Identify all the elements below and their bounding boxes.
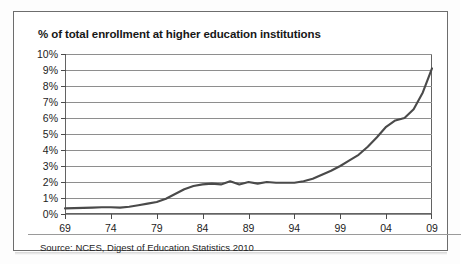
x-axis-tick [111,214,112,219]
y-axis-label: 1% [43,192,58,204]
y-axis-label: 7% [43,96,58,108]
series-line-enrollment-share [65,68,432,208]
x-axis-label: 04 [380,222,392,234]
x-axis-label: 84 [197,222,209,234]
x-axis-label: 89 [243,222,255,234]
series-line-chart [65,54,432,214]
x-axis-tick [249,214,250,219]
source-note: Source: NCES, Digest of Education Statis… [40,242,254,253]
x-axis-tick [386,214,387,219]
y-axis-label: 4% [43,144,58,156]
y-axis-label: 8% [43,80,58,92]
y-axis-label: 10% [37,48,58,60]
chart-title: % of total enrollment at higher educatio… [38,28,321,40]
x-axis-tick [65,214,66,219]
x-axis-tick [157,214,158,219]
plot-area: 10%9%8%7%6%5%4%3%2%1%0% 6974798489949904… [65,54,432,214]
x-axis-label: 09 [426,222,438,234]
y-axis-label: 2% [43,176,58,188]
y-axis-label: 0% [43,208,58,220]
figure-frame: % of total enrollment at higher educatio… [13,11,448,251]
y-axis-label: 3% [43,160,58,172]
x-axis-label: 74 [105,222,117,234]
x-axis-tick [431,214,432,219]
y-axis-label: 6% [43,112,58,124]
x-axis-label: 94 [289,222,301,234]
y-axis-label: 5% [43,128,58,140]
footer-divider [28,234,461,235]
x-axis-label: 69 [59,222,71,234]
y-axis-label: 9% [43,64,58,76]
x-axis-tick [203,214,204,219]
x-axis-label: 99 [334,222,346,234]
x-axis-tick [340,214,341,219]
x-axis-tick [294,214,295,219]
x-axis-label: 79 [151,222,163,234]
